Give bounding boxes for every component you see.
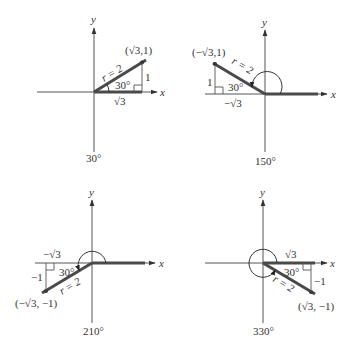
x-axis-label: x xyxy=(330,88,336,100)
reference-angle-label: 30° xyxy=(115,79,130,91)
point-label: (−√3, −1) xyxy=(15,297,58,310)
y-axis-label: y xyxy=(261,16,267,28)
y-axis-label: y xyxy=(88,186,94,198)
horizontal-leg-label: −√3 xyxy=(224,97,242,109)
horizontal-leg-label: √3 xyxy=(285,248,297,260)
panel-210-degrees: x y 30° −1 −√3 (−√3, −1) r = 2 210° xyxy=(15,186,164,337)
horizontal-leg-label: −√3 xyxy=(43,248,61,260)
reference-angle-label: 30° xyxy=(284,266,299,278)
panel-30-degrees: x y 30° 1 √3 (√3,1) r = 2 30° xyxy=(37,13,165,164)
point-label: (√3, −1) xyxy=(298,300,334,313)
vertical-leg-label: −1 xyxy=(31,271,43,283)
angle-label: 150° xyxy=(255,155,276,167)
point-label: (−√3,1) xyxy=(192,46,226,59)
vertical-leg-label: −1 xyxy=(314,275,326,287)
y-axis-label: y xyxy=(259,186,265,198)
panel-150-degrees: x y 30° 1 −√3 (−√3,1) r = 2 150° xyxy=(192,16,336,167)
vertical-leg-label: 1 xyxy=(145,71,151,83)
x-axis-label: x xyxy=(158,257,164,269)
reference-angle-label: 30° xyxy=(228,81,243,93)
right-angle-marker xyxy=(215,87,223,94)
radius-label: r = 2 xyxy=(230,54,256,76)
angle-label: 30° xyxy=(86,152,101,164)
angle-label: 210° xyxy=(83,325,104,337)
vertical-leg-label: 1 xyxy=(207,76,213,88)
trig-reference-angle-figure: x y 30° 1 √3 (√3,1) r = 2 30° x y 3 xyxy=(0,0,356,348)
x-axis-label: x xyxy=(159,86,165,98)
horizontal-leg-label: √3 xyxy=(114,95,126,107)
x-axis-label: x xyxy=(329,257,335,269)
point-label: (√3,1) xyxy=(125,44,152,57)
angle-label: 330° xyxy=(253,325,274,337)
right-angle-marker xyxy=(46,263,54,270)
panel-330-degrees: x y 30° −1 √3 (√3, −1) r = 2 330° xyxy=(205,186,335,337)
y-axis-label: y xyxy=(90,13,96,25)
